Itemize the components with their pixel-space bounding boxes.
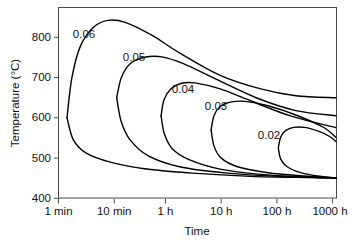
x-tick-label-10min: 10 min xyxy=(97,205,132,217)
y-tick-label-700: 700 xyxy=(32,71,51,83)
chart-canvas: 800 700 600 500 400 1 min 10 min 1 h 10 … xyxy=(0,0,361,242)
ttt-curve-0-02-lower xyxy=(278,148,336,178)
curve-label-0-04: 0.04 xyxy=(172,83,195,95)
ttt-diagram-figure: 800 700 600 500 400 1 min 10 min 1 h 10 … xyxy=(0,0,361,242)
y-tick-label-400: 400 xyxy=(32,192,51,204)
y-tick-label-800: 800 xyxy=(32,31,51,43)
ttt-curve-0-06-upper xyxy=(67,20,337,118)
y-tick-label-500: 500 xyxy=(32,152,51,164)
x-tick-label-1min: 1 min xyxy=(44,205,72,217)
y-tick-label-600: 600 xyxy=(32,111,51,123)
ttt-curves-group xyxy=(67,20,337,178)
x-axis-ticks xyxy=(59,199,333,204)
x-tick-label-10h: 10 h xyxy=(210,205,232,217)
curve-labels-group: 0.06 0.05 0.04 0.03 0.02 xyxy=(73,28,280,141)
x-axis-title: Time xyxy=(184,225,209,237)
curve-label-0-05: 0.05 xyxy=(123,51,145,63)
x-tick-label-1000h: 1000 h xyxy=(312,205,347,217)
y-axis-ticks xyxy=(54,37,59,198)
curve-label-0-02: 0.02 xyxy=(258,129,280,141)
curve-label-0-03: 0.03 xyxy=(205,100,227,112)
x-tick-label-100h: 100 h xyxy=(263,205,292,217)
x-tick-label-1h: 1 h xyxy=(158,205,174,217)
y-axis-title: Temperature (°C) xyxy=(9,59,21,147)
curve-label-0-06: 0.06 xyxy=(73,28,95,40)
